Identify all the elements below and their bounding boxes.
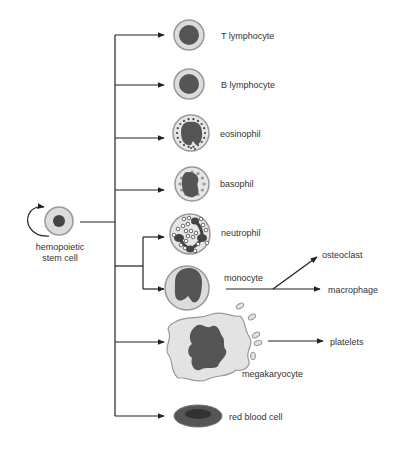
macrophage-label: macrophage — [328, 285, 378, 295]
eosinophil-cell: eosinophil — [173, 115, 261, 151]
t-lymphocyte-cell: T lymphocyte — [174, 20, 274, 50]
osteoclast-label: osteoclast — [322, 250, 363, 260]
b-lymphocyte-cell: B lymphocyte — [174, 69, 275, 99]
arrow-osteoclast — [273, 257, 317, 289]
megakaryocyte-label: megakaryocyte — [242, 369, 303, 379]
platelets-label: platelets — [330, 337, 364, 347]
eosinophil-nucleus — [181, 122, 202, 145]
stem-cell-label-line2: stem cell — [42, 253, 78, 263]
basophil-nucleus — [182, 172, 199, 197]
neutrophil-cell: neutrophil — [170, 214, 261, 254]
t-lymphocyte-label: T lymphocyte — [221, 31, 274, 41]
basophil-cell: basophil — [175, 167, 254, 201]
red-blood-cell-label: red blood cell — [229, 412, 283, 422]
stem-cell: hemopoietic stem cell — [28, 207, 85, 263]
basophil-label: basophil — [220, 179, 254, 189]
eosinophil-label: eosinophil — [220, 129, 261, 139]
stem-cell-nucleus — [53, 215, 65, 227]
neutrophil-label: neutrophil — [221, 228, 261, 238]
b-lymphocyte-label: B lymphocyte — [221, 80, 275, 90]
monocyte-label: monocyte — [224, 273, 263, 283]
monocyte-cell: monocyte — [165, 266, 263, 310]
diagram-canvas: hemopoietic stem cell T lymphocyte B lym… — [0, 0, 400, 456]
hematopoiesis-diagram: hemopoietic stem cell T lymphocyte B lym… — [0, 0, 400, 456]
red-blood-cell-center — [185, 409, 211, 419]
red-blood-cell: red blood cell — [174, 405, 283, 427]
stem-cell-label-line1: hemopoietic — [36, 242, 85, 252]
